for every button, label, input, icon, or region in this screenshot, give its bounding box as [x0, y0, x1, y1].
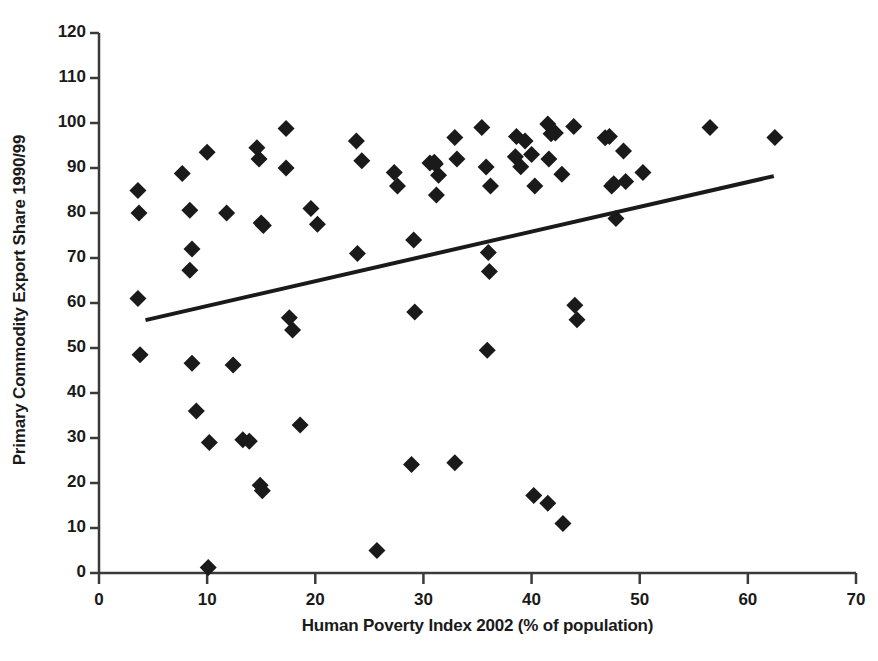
- data-point: [184, 355, 201, 372]
- data-point: [348, 133, 365, 150]
- data-point: [478, 159, 495, 176]
- x-tick-label: 50: [610, 590, 670, 610]
- x-axis-title: Human Poverty Index 2002 (% of populatio…: [302, 616, 654, 635]
- data-point: [565, 118, 582, 135]
- data-point: [188, 403, 205, 420]
- trend-line-group: [146, 176, 774, 320]
- data-point: [131, 205, 148, 222]
- data-point: [309, 216, 326, 233]
- data-point: [225, 357, 242, 374]
- y-tick-label: 110: [14, 67, 86, 87]
- data-point: [284, 322, 301, 339]
- data-point: [181, 202, 198, 219]
- x-axis-title-wrap: Human Poverty Index 2002 (% of populatio…: [99, 616, 856, 636]
- data-point: [540, 151, 557, 168]
- data-point: [448, 151, 465, 168]
- data-point-group: [129, 115, 783, 576]
- data-point: [766, 129, 783, 146]
- plot-area: [0, 0, 878, 661]
- x-tick-label: 0: [69, 590, 129, 610]
- x-axis-ticks: [99, 573, 856, 584]
- trend-line: [146, 176, 774, 320]
- data-point: [702, 119, 719, 136]
- data-point: [199, 144, 216, 161]
- x-tick-label: 70: [826, 590, 878, 610]
- data-point: [568, 311, 585, 328]
- data-point: [615, 142, 632, 159]
- data-point: [428, 187, 445, 204]
- data-point: [389, 178, 406, 195]
- data-point: [292, 416, 309, 433]
- data-point: [132, 346, 149, 363]
- y-tick-label: 70: [14, 247, 86, 267]
- data-point: [481, 263, 498, 280]
- data-point: [353, 152, 370, 169]
- data-point: [405, 232, 422, 249]
- data-point: [526, 178, 543, 195]
- y-tick-label: 100: [14, 112, 86, 132]
- data-point: [482, 178, 499, 195]
- data-point: [129, 182, 146, 199]
- data-point: [368, 542, 385, 559]
- data-point: [525, 487, 542, 504]
- x-tick-label: 30: [393, 590, 453, 610]
- data-point: [218, 205, 235, 222]
- y-tick-label: 40: [14, 382, 86, 402]
- data-point: [479, 342, 496, 359]
- y-tick-label: 30: [14, 427, 86, 447]
- data-point: [281, 309, 298, 326]
- data-point: [617, 173, 634, 190]
- y-tick-label: 60: [14, 292, 86, 312]
- x-tick-label: 10: [177, 590, 237, 610]
- y-tick-label: 10: [14, 517, 86, 537]
- x-tick-label: 60: [718, 590, 778, 610]
- data-point: [446, 454, 463, 471]
- data-point: [553, 166, 570, 183]
- data-point: [174, 165, 191, 182]
- data-point: [129, 290, 146, 307]
- data-point: [386, 164, 403, 181]
- x-tick-label: 40: [502, 590, 562, 610]
- data-point: [539, 495, 556, 512]
- data-point: [403, 456, 420, 473]
- y-tick-label: 50: [14, 337, 86, 357]
- y-tick-label: 80: [14, 202, 86, 222]
- data-point: [278, 160, 295, 177]
- y-tick-label: 0: [14, 562, 86, 582]
- data-point: [251, 151, 268, 168]
- data-point: [634, 164, 651, 181]
- x-tick-label: 20: [285, 590, 345, 610]
- data-point: [201, 434, 218, 451]
- data-point: [554, 515, 571, 532]
- data-point: [278, 120, 295, 137]
- y-axis-ticks: [90, 33, 99, 573]
- data-point: [184, 241, 201, 258]
- y-tick-label: 20: [14, 472, 86, 492]
- y-tick-label: 90: [14, 157, 86, 177]
- data-point: [302, 200, 319, 217]
- data-point: [566, 297, 583, 314]
- scatter-chart-figure: Primary Commodity Export Share 1990/99 H…: [0, 0, 878, 661]
- data-point: [349, 245, 366, 262]
- y-tick-label: 120: [14, 22, 86, 42]
- data-point: [181, 262, 198, 279]
- data-point: [480, 244, 497, 261]
- data-point: [473, 119, 490, 136]
- data-point: [446, 129, 463, 146]
- data-point: [406, 304, 423, 321]
